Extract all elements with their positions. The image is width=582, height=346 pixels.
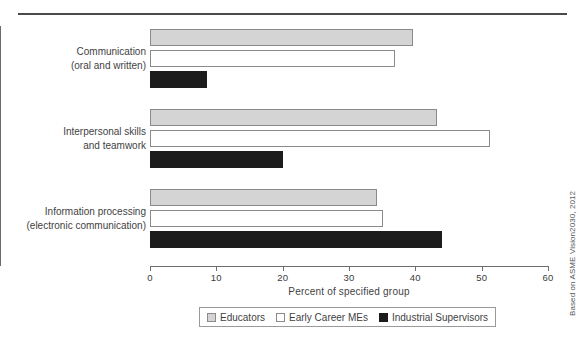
x-tick-50 bbox=[482, 266, 483, 271]
category-label-1-line-1: Communication bbox=[4, 45, 146, 59]
x-tick-20 bbox=[283, 266, 284, 271]
bar-group3-industrial[interactable] bbox=[150, 231, 442, 248]
bar-group1-early[interactable] bbox=[150, 50, 395, 67]
x-tick-label-10: 10 bbox=[211, 272, 222, 283]
x-tick-30 bbox=[349, 266, 350, 271]
legend-item-early-career-mes[interactable]: Early Career MEs bbox=[276, 312, 368, 323]
bar-group2-early[interactable] bbox=[150, 130, 490, 147]
legend-swatch-early-career-mes bbox=[276, 313, 285, 322]
category-label-2-line-2: and teamwork bbox=[4, 139, 146, 153]
x-tick-label-40: 40 bbox=[410, 272, 421, 283]
bar-group3-educators[interactable] bbox=[150, 189, 377, 206]
legend-label-early-career-mes: Early Career MEs bbox=[289, 312, 368, 323]
bar-group2-industrial[interactable] bbox=[150, 151, 283, 168]
x-tick-label-20: 20 bbox=[277, 272, 288, 283]
bar-group3-early[interactable] bbox=[150, 210, 383, 227]
source-credit-text: Based on ASME Vision2030, 2012 bbox=[568, 196, 577, 316]
x-tick-label-0: 0 bbox=[147, 272, 152, 283]
legend-item-industrial-supervisors[interactable]: Industrial Supervisors bbox=[379, 312, 488, 323]
category-label-3: Information processing(electronic commun… bbox=[4, 205, 146, 232]
legend-swatch-industrial-supervisors bbox=[379, 313, 388, 322]
category-label-3-line-1: Information processing bbox=[4, 205, 146, 219]
category-label-2: Interpersonal skillsand teamwork bbox=[4, 125, 146, 152]
bar-group1-educators[interactable] bbox=[150, 29, 413, 46]
category-label-1-line-2: (oral and written) bbox=[4, 59, 146, 73]
chart-figure: 0102030405060 Communication(oral and wri… bbox=[0, 0, 582, 346]
x-axis-title: Percent of specified group bbox=[150, 286, 548, 297]
chart-legend: Educators Early Career MEs Industrial Su… bbox=[199, 307, 496, 327]
y-axis-line bbox=[0, 26, 1, 266]
category-label-2-line-1: Interpersonal skills bbox=[4, 125, 146, 139]
x-tick-label-60: 60 bbox=[543, 272, 554, 283]
category-label-3-line-2: (electronic communication) bbox=[4, 219, 146, 233]
bar-group1-industrial[interactable] bbox=[150, 71, 207, 88]
x-tick-0 bbox=[150, 266, 151, 271]
x-tick-label-30: 30 bbox=[344, 272, 355, 283]
x-tick-40 bbox=[415, 266, 416, 271]
legend-label-industrial-supervisors: Industrial Supervisors bbox=[392, 312, 488, 323]
legend-item-educators[interactable]: Educators bbox=[207, 312, 265, 323]
x-tick-60 bbox=[548, 266, 549, 271]
bar-group2-educators[interactable] bbox=[150, 109, 437, 126]
source-credit: Based on ASME Vision2030, 2012 bbox=[556, 76, 565, 196]
category-label-1: Communication(oral and written) bbox=[4, 45, 146, 72]
legend-swatch-educators bbox=[207, 313, 216, 322]
top-rule bbox=[18, 13, 567, 15]
legend-label-educators: Educators bbox=[220, 312, 265, 323]
x-tick-10 bbox=[216, 266, 217, 271]
x-tick-label-50: 50 bbox=[476, 272, 487, 283]
